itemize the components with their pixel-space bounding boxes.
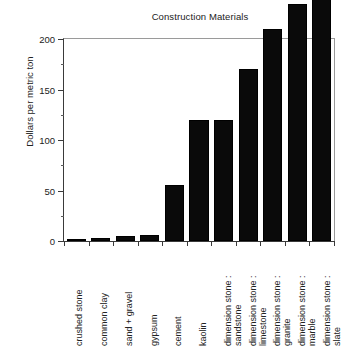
y-tick-mark [58, 39, 64, 40]
x-tick-mark [138, 241, 139, 246]
y-tick-minor [61, 64, 65, 65]
x-tick-mark [113, 241, 114, 246]
x-label-line1: cement [173, 316, 183, 346]
bar-slot [211, 39, 236, 241]
x-tick-mark [64, 241, 65, 246]
x-label-line1: dimension stone : [322, 275, 332, 346]
x-label-line1: dimension stone : [297, 275, 307, 346]
x-axis-category-label: dimension stone :slate [323, 250, 342, 346]
x-label-line1: kaolin [198, 322, 208, 346]
x-axis-category-label: sand + gravel [125, 250, 135, 346]
bar [288, 4, 307, 241]
bar [189, 120, 208, 241]
x-axis-category-label: crushed stone [75, 250, 85, 346]
bar [116, 236, 135, 241]
chart-figure: Construction Materials Dollars per metri… [0, 0, 342, 347]
x-tick-mark [309, 241, 310, 246]
y-tick-label: 100 [39, 135, 55, 146]
x-tick-mark [211, 241, 212, 246]
x-tick-mark [187, 241, 188, 246]
bar [67, 239, 86, 241]
y-tick-label: 200 [39, 34, 55, 45]
bar-slot [309, 39, 334, 241]
x-label-slot: gypsum [137, 250, 162, 346]
x-tick-mark [236, 241, 237, 246]
x-tick-mark [260, 241, 261, 246]
x-axis-category-label: common clay [100, 250, 110, 346]
x-label-line1: gypsum [149, 314, 159, 346]
x-label-slot: sand + gravel [112, 250, 137, 346]
bar-slot [285, 39, 310, 241]
bar-slot [187, 39, 212, 241]
bar [263, 29, 282, 241]
x-tick-mark [89, 241, 90, 246]
x-axis-category-label: gypsum [150, 250, 160, 346]
bar-slot [138, 39, 163, 241]
y-tick-minor [61, 115, 65, 116]
bar-series [64, 39, 334, 241]
x-label-line1: sand + gravel [124, 292, 134, 346]
bar [140, 235, 159, 241]
x-label-line1: dimension stone : [248, 275, 258, 346]
y-tick-mark [58, 140, 64, 141]
x-label-line1: common clay [99, 293, 109, 346]
x-tick-mark [334, 241, 335, 246]
x-tick-mark [285, 241, 286, 246]
x-tick-mark [162, 241, 163, 246]
x-label-slot: dimension stone :marble [286, 250, 311, 346]
x-axis-labels: crushed stonecommon claysand + gravelgyp… [63, 250, 335, 346]
bar-slot [89, 39, 114, 241]
y-tick-label: 50 [44, 185, 55, 196]
x-label-line1: crushed stone [74, 289, 84, 346]
x-label-line2: slate [332, 250, 342, 346]
x-label-line1: dimension stone : [272, 275, 282, 346]
bar [312, 0, 331, 241]
bar-slot [113, 39, 138, 241]
bar-slot [236, 39, 261, 241]
y-tick-label: 150 [39, 84, 55, 95]
y-tick-minor [61, 216, 65, 217]
bar [214, 120, 233, 241]
x-axis-category-label: cement [174, 250, 184, 346]
x-label-slot: dimension stone :slate [310, 250, 335, 346]
bar-slot [64, 39, 89, 241]
y-axis-label: Dollars per metric ton [24, 27, 35, 177]
plot-area: 050100150200 [63, 38, 335, 242]
x-label-slot: kaolin [187, 250, 212, 346]
x-label-slot: dimension stone :limestone [236, 250, 261, 346]
x-label-slot: dimension stone :sandstone [211, 250, 236, 346]
y-tick-mark [58, 90, 64, 91]
bar-slot [162, 39, 187, 241]
x-axis-category-label: kaolin [199, 250, 209, 346]
bar [91, 238, 110, 241]
x-label-line1: dimension stone : [223, 275, 233, 346]
x-label-slot: dimension stone :granite [261, 250, 286, 346]
y-tick-mark [58, 191, 64, 192]
y-tick-label: 0 [50, 236, 55, 247]
x-label-slot: common clay [88, 250, 113, 346]
bar [239, 69, 258, 241]
x-label-slot: cement [162, 250, 187, 346]
x-label-slot: crushed stone [63, 250, 88, 346]
y-tick-minor [61, 165, 65, 166]
bar [165, 185, 184, 241]
bar-slot [260, 39, 285, 241]
